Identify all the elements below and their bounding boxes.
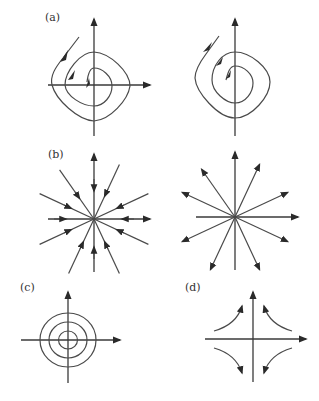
panel-d: (d) bbox=[185, 281, 306, 382]
arrow-inward-outer bbox=[60, 50, 68, 62]
saddle-branch-lower-right bbox=[264, 348, 292, 373]
inward-arrowhead bbox=[105, 189, 108, 196]
outward-ray bbox=[211, 217, 236, 270]
panel-label-b: (b) bbox=[48, 148, 64, 161]
inward-arrowhead bbox=[64, 230, 71, 233]
panel-label-a: (a) bbox=[45, 11, 60, 24]
panel-label-d: (d) bbox=[185, 281, 201, 294]
spiral-trajectory bbox=[52, 37, 130, 121]
panel-a-left: (a) bbox=[45, 11, 150, 136]
arrow-outward-middle bbox=[216, 57, 223, 66]
phase-portraits-figure: (a) (b) (c) (d) bbox=[0, 0, 319, 401]
panel-b-right bbox=[182, 152, 298, 270]
inward-arrowhead bbox=[80, 242, 83, 249]
outward-ray bbox=[182, 217, 235, 242]
inward-arrowhead bbox=[105, 242, 108, 249]
saddle-branch-lower-left bbox=[214, 348, 242, 373]
saddle-branch-upper-right bbox=[264, 306, 292, 331]
panel-c: (c) bbox=[20, 281, 120, 383]
outward-ray bbox=[235, 193, 288, 218]
outward-ray bbox=[235, 164, 260, 217]
saddle-branch-upper-left bbox=[214, 306, 242, 331]
outward-ray bbox=[235, 217, 260, 270]
inward-arrowhead bbox=[117, 230, 124, 233]
outward-ray bbox=[235, 217, 288, 242]
arrow-inward-inner bbox=[86, 78, 90, 88]
inward-arrowhead bbox=[75, 192, 79, 198]
panel-b-left: (b) bbox=[40, 148, 150, 273]
inward-arrowhead bbox=[64, 205, 71, 208]
panel-label-c: (c) bbox=[20, 281, 35, 294]
inward-rays bbox=[40, 165, 149, 274]
panel-a-right bbox=[195, 19, 270, 136]
spiral-trajectory bbox=[195, 36, 270, 118]
inward-arrowhead bbox=[117, 205, 124, 208]
